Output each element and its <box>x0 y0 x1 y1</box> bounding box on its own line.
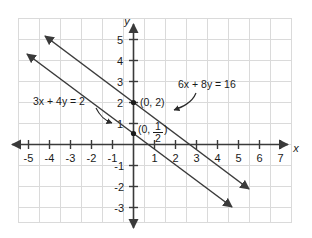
x-tick-label-3: 3 <box>193 152 199 164</box>
x-tick-label-1: 1 <box>151 152 157 164</box>
x-axis-name: x <box>292 142 299 154</box>
point-0-2-marker <box>131 100 136 105</box>
equation-label-3x-4y-2: 3x + 4y = 2 <box>33 95 85 107</box>
point-label-fraction-numerator: 1 <box>155 120 161 132</box>
y-tick-label-3: 3 <box>117 76 123 88</box>
point-0-half-marker <box>131 131 136 136</box>
x-tick-label--3: -3 <box>66 152 76 164</box>
point-label-fraction-denominator: 2 <box>155 132 161 144</box>
x-tick-label-5: 5 <box>235 152 241 164</box>
x-tick-label-4: 4 <box>214 152 220 164</box>
graph-figure: -5 -4 -3 -2 -1 1 2 3 4 5 6 7 x <box>0 0 312 238</box>
y-tick-label-2: 2 <box>117 97 123 109</box>
coordinate-plane-graph: -5 -4 -3 -2 -1 1 2 3 4 5 6 7 x <box>0 0 312 238</box>
y-tick-label--3: -3 <box>114 202 124 214</box>
point-label-0-one-half-prefix: (0, <box>138 123 150 135</box>
x-tick-label-7: 7 <box>277 152 283 164</box>
y-tick-label-4: 4 <box>117 55 123 67</box>
y-tick-label--2: -2 <box>114 181 124 193</box>
x-tick-label--2: -2 <box>87 152 97 164</box>
point-label-0-2: (0, 2) <box>140 96 165 108</box>
x-tick-label--5: -5 <box>24 152 34 164</box>
y-tick-label--1: -1 <box>114 160 124 172</box>
x-tick-label-2: 2 <box>172 152 178 164</box>
equation-label-6x-8y-16: 6x + 8y = 16 <box>178 78 236 90</box>
y-tick-label-5: 5 <box>117 34 123 46</box>
x-tick-label--4: -4 <box>45 152 55 164</box>
point-label-0-one-half-suffix: ) <box>164 123 168 135</box>
x-tick-label-6: 6 <box>256 152 262 164</box>
